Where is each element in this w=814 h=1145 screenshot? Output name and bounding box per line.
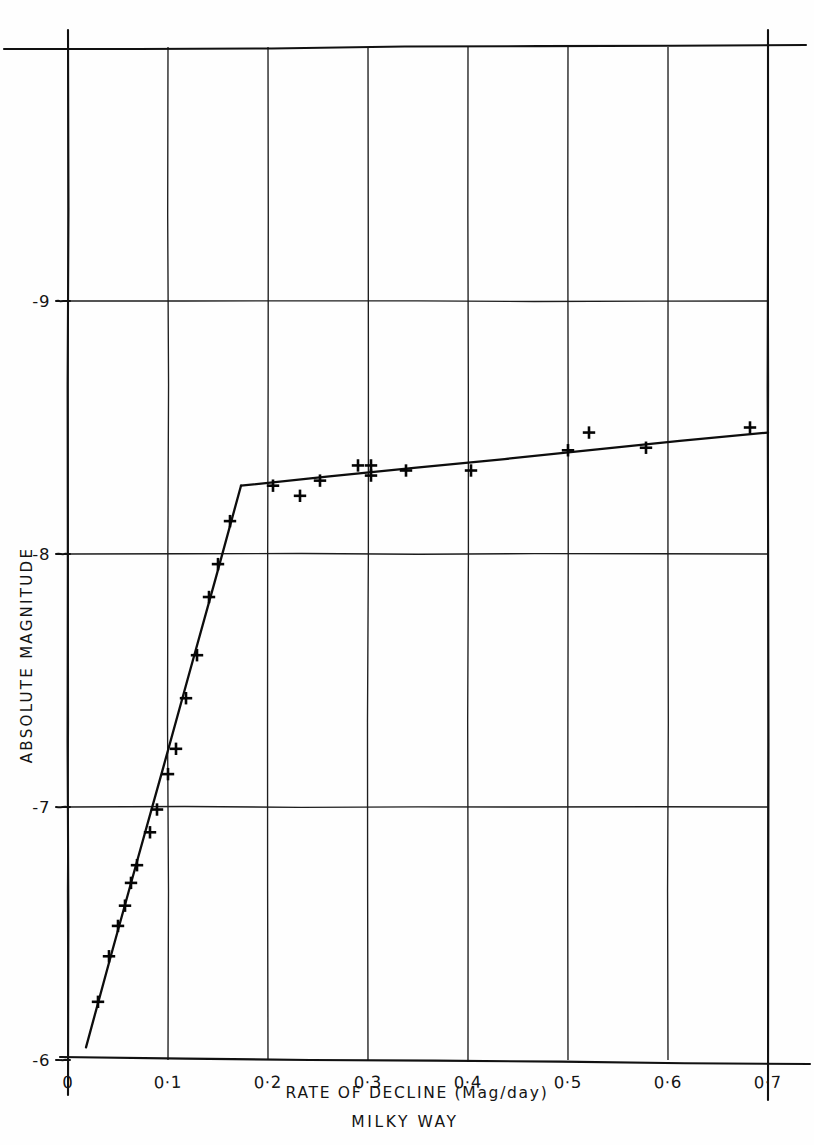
data-point bbox=[465, 464, 477, 476]
top-axis-line bbox=[4, 45, 806, 49]
y-gridline-1 bbox=[68, 806, 768, 807]
data-point bbox=[212, 558, 224, 570]
data-point bbox=[103, 950, 115, 962]
data-markers-group bbox=[92, 421, 756, 1008]
x-tick-label-2: 0·2 bbox=[253, 1073, 282, 1093]
left-axis-line bbox=[68, 30, 69, 1095]
data-point bbox=[352, 459, 364, 471]
data-point bbox=[92, 996, 104, 1008]
chart-plot-area: 00·10·20·30·40·50·60·7-6-7-8-9RATE OF DE… bbox=[0, 0, 814, 1145]
x-tick-label-6: 0·6 bbox=[653, 1073, 682, 1093]
chart-subtitle: MILKY WAY bbox=[351, 1113, 458, 1131]
bottom-axis-line bbox=[60, 1057, 810, 1064]
y-tick-label-0: -6 bbox=[32, 1051, 50, 1070]
data-point bbox=[119, 899, 131, 911]
data-point bbox=[294, 490, 306, 502]
x-tick-label-7: 0·7 bbox=[753, 1073, 782, 1093]
right-axis-line bbox=[768, 30, 769, 1100]
chart-figure: 00·10·20·30·40·50·60·7-6-7-8-9RATE OF DE… bbox=[0, 0, 814, 1145]
data-point bbox=[125, 877, 137, 889]
data-point bbox=[224, 515, 236, 527]
data-point bbox=[203, 591, 215, 603]
data-point bbox=[400, 464, 412, 476]
fit-line-group bbox=[86, 433, 768, 1048]
x-axis-title: RATE OF DECLINE (Mag/day) bbox=[286, 1084, 549, 1102]
y-tick-label-3: -9 bbox=[32, 292, 50, 311]
y-axis-title: ABSOLUTE MAGNITUDE bbox=[18, 547, 36, 763]
gridlines-group bbox=[68, 47, 769, 1060]
data-point bbox=[170, 743, 182, 755]
y-tick-label-1: -7 bbox=[32, 798, 50, 817]
x-tick-label-5: 0·5 bbox=[553, 1073, 582, 1093]
axes-group bbox=[4, 30, 810, 1100]
data-point bbox=[583, 426, 595, 438]
data-point bbox=[744, 421, 756, 433]
y-gridline-3 bbox=[68, 301, 768, 302]
data-point bbox=[112, 920, 124, 932]
x-tick-label-1: 0·1 bbox=[153, 1073, 182, 1093]
x-tick-label-0: 0 bbox=[62, 1073, 74, 1092]
y-gridline-2 bbox=[68, 554, 768, 555]
data-point bbox=[562, 444, 574, 456]
data-point bbox=[131, 859, 143, 871]
